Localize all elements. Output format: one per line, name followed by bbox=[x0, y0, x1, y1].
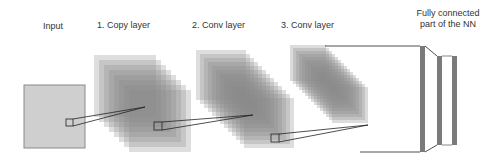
conv-layer-3-stack bbox=[290, 45, 368, 123]
fc-layers bbox=[420, 46, 457, 152]
input-square bbox=[24, 85, 85, 148]
cnn-diagram bbox=[0, 0, 492, 163]
fc-bar-2 bbox=[437, 56, 442, 145]
fc-bar-1 bbox=[420, 46, 425, 152]
fc-bar-3 bbox=[452, 56, 457, 145]
copy-layer-stack bbox=[94, 55, 191, 152]
conv-layer-2-stack bbox=[196, 50, 294, 148]
